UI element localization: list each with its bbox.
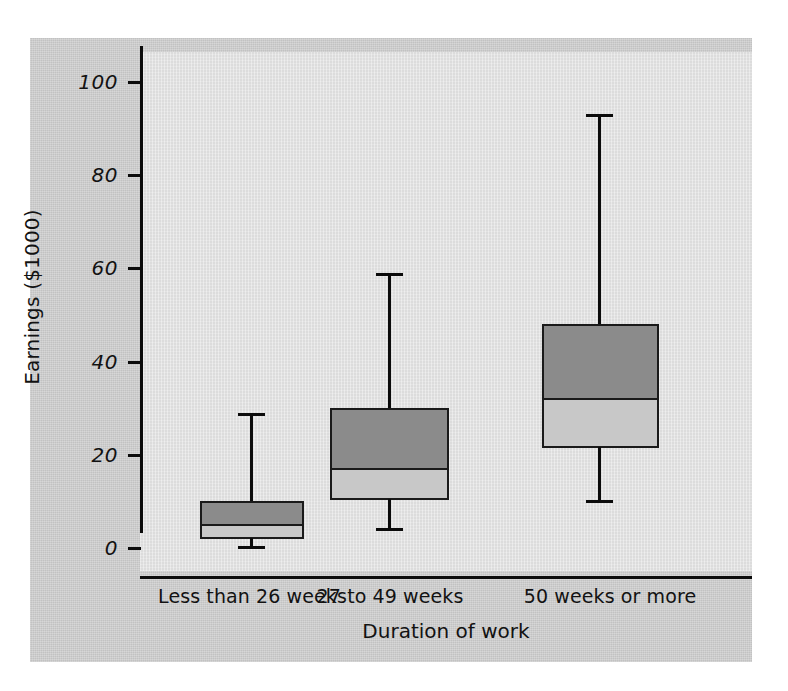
y-tick-label-80: 80 <box>38 163 118 187</box>
upper-whisker-cap <box>238 413 265 416</box>
y-tick-100 <box>128 81 141 84</box>
y-tick-40 <box>128 361 141 364</box>
y-tick-label-0: 0 <box>38 536 118 560</box>
lower-whisker-line <box>388 499 391 530</box>
box-upper-half <box>330 408 449 469</box>
y-tick-label-100: 100 <box>38 70 118 94</box>
median-line <box>200 524 304 526</box>
upper-whisker-cap <box>586 114 613 117</box>
y-tick-80 <box>128 174 141 177</box>
y-axis-line <box>140 46 143 533</box>
y-tick-label-20: 20 <box>38 443 118 467</box>
lower-whisker-line <box>598 447 601 502</box>
y-tick-60 <box>128 267 141 270</box>
y-tick-0 <box>128 547 141 550</box>
box-upper-half <box>542 324 659 399</box>
y-axis-title: Earnings ($1000) <box>20 147 44 447</box>
chart-root: 100 80 60 40 20 0 Earnings ($1000) Durat… <box>0 0 788 691</box>
y-tick-20 <box>128 454 141 457</box>
x-category-label-2: 50 weeks or more <box>495 585 725 607</box>
median-line <box>542 398 659 400</box>
x-category-label-1: 27 to 49 weeks <box>285 585 495 607</box>
box-upper-half <box>200 501 304 525</box>
lower-whisker-cap <box>238 546 265 549</box>
box-lower-half <box>200 525 304 539</box>
x-axis-line <box>140 576 752 579</box>
median-line <box>330 468 449 470</box>
box-lower-half <box>542 399 659 448</box>
y-tick-label-60: 60 <box>38 256 118 280</box>
lower-whisker-cap <box>586 500 613 503</box>
x-axis-title: Duration of work <box>140 619 752 643</box>
upper-whisker-line <box>388 273 391 409</box>
upper-whisker-line <box>250 413 253 503</box>
box-lower-half <box>330 469 449 500</box>
upper-whisker-line <box>598 114 601 325</box>
lower-whisker-cap <box>376 528 403 531</box>
upper-whisker-cap <box>376 273 403 276</box>
y-tick-label-40: 40 <box>38 350 118 374</box>
